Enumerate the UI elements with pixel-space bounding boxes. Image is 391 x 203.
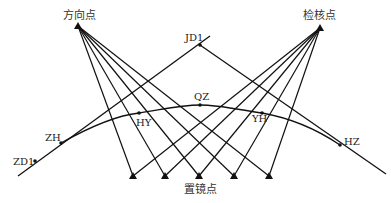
station-point-label: 置镜点: [184, 182, 217, 196]
hz-label: HZ: [344, 136, 360, 147]
jd1-point-icon: [198, 43, 202, 47]
right-tangent-line: [200, 45, 386, 174]
hy-label: HY: [136, 117, 152, 128]
check-point-label: 检核点: [303, 8, 336, 22]
qz-label: QZ: [194, 91, 209, 102]
jd1-label: JD1: [184, 32, 203, 43]
curve-setout-diagram: 方向点 检核点 置镜点 JD1 QZ HY YH ZH HZ ZD1: [0, 0, 391, 203]
direction-point-label: 方向点: [63, 8, 96, 22]
hz-point-icon: [338, 143, 342, 147]
check-point-triangle-icon: [316, 24, 324, 31]
hy-point-icon: [137, 111, 141, 115]
check-sight-lines: [133, 28, 320, 176]
direction-sight-lines: [78, 26, 269, 176]
direction-point-triangle-icon: [74, 22, 82, 29]
curve-line: [61, 105, 340, 145]
yh-label: YH: [251, 113, 268, 124]
zd1-label: ZD1: [13, 156, 34, 167]
qz-point-icon: [198, 103, 202, 107]
zh-label: ZH: [45, 132, 61, 143]
